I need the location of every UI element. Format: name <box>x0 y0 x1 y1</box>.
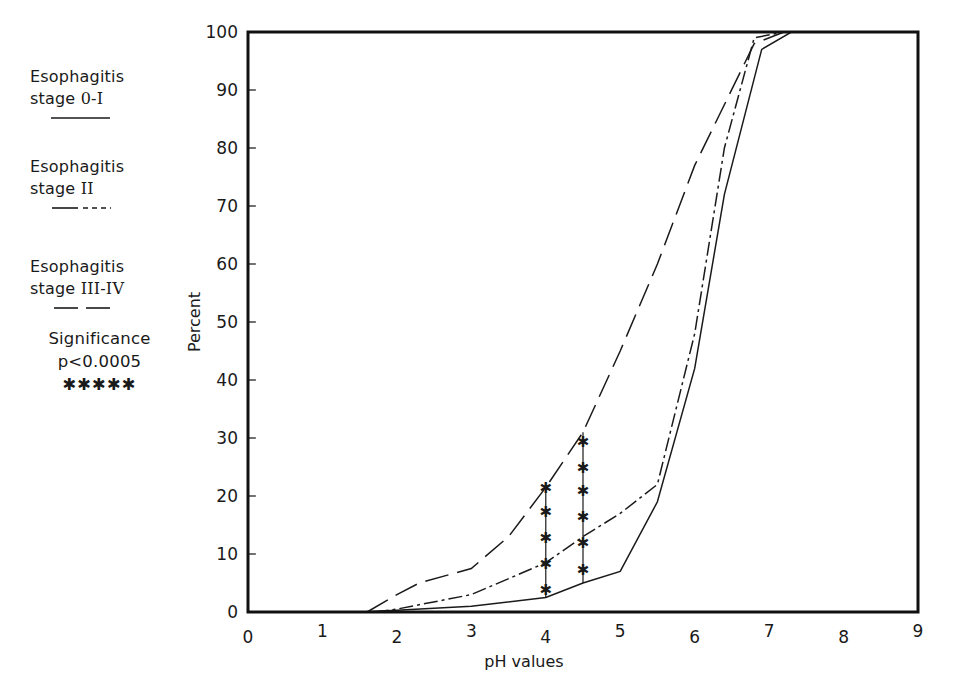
line-chart: 0102030405060708090100 0123456789 ✱✱✱✱✱✱… <box>0 0 954 699</box>
y-tick-label: 100 <box>206 22 238 42</box>
y-tick-label: 40 <box>216 370 238 390</box>
y-tick-label: 30 <box>216 428 238 448</box>
asterisk-icon: ✱ <box>577 482 590 500</box>
x-tick-label: 4 <box>540 627 551 647</box>
asterisk-icon: ✱ <box>577 534 590 552</box>
x-axis: 0123456789 <box>243 621 924 647</box>
x-tick-label: 0 <box>243 627 254 647</box>
y-tick-label: 80 <box>216 138 238 158</box>
x-tick-label: 3 <box>466 621 477 641</box>
y-tick-label: 70 <box>216 196 238 216</box>
y-tick-label: 60 <box>216 254 238 274</box>
x-tick-label: 1 <box>317 621 328 641</box>
x-tick-label: 2 <box>391 627 402 647</box>
asterisk-icon: ✱ <box>577 561 590 579</box>
y-tick-label: 0 <box>227 602 238 622</box>
y-tick-label: 50 <box>216 312 238 332</box>
asterisk-icon: ✱ <box>539 581 552 599</box>
asterisk-icon: ✱ <box>577 459 590 477</box>
x-axis-title: pH values <box>484 652 563 671</box>
significance-annotations: ✱✱✱✱✱✱✱✱✱✱✱ <box>539 432 589 599</box>
y-tick-label: 20 <box>216 486 238 506</box>
y-tick-label: 90 <box>216 80 238 100</box>
x-tick-label: 5 <box>615 621 626 641</box>
x-tick-label: 8 <box>838 627 849 647</box>
x-tick-label: 7 <box>764 621 775 641</box>
x-tick-label: 9 <box>913 621 924 641</box>
asterisk-icon: ✱ <box>577 433 590 451</box>
y-tick-label: 10 <box>216 544 238 564</box>
asterisk-icon: ✱ <box>577 508 590 526</box>
y-axis-title: Percent <box>185 292 204 352</box>
series-long-dash-line <box>367 32 784 612</box>
asterisk-icon: ✱ <box>539 529 552 547</box>
asterisk-icon: ✱ <box>539 503 552 521</box>
asterisk-icon: ✱ <box>539 479 552 497</box>
x-tick-label: 6 <box>689 627 700 647</box>
asterisk-icon: ✱ <box>539 555 552 573</box>
